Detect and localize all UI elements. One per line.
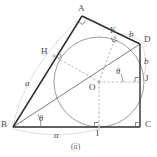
- side-label-a-left: a: [25, 79, 30, 88]
- side-label-a-bottom: a: [54, 131, 59, 140]
- side-label-b-right: b: [144, 57, 149, 66]
- vertex-label-h: H: [41, 47, 48, 56]
- vertex-label-j: J: [145, 74, 149, 83]
- angle-label-theta-at-o: θ: [116, 67, 120, 76]
- right-angle-mark-at-j: [135, 78, 140, 83]
- figure-canvas: [0, 0, 157, 157]
- vertex-label-o: O: [89, 83, 96, 92]
- radius-o-to-h: [54, 56, 99, 82]
- center-point-o: [98, 81, 100, 83]
- vertex-label-c: C: [145, 120, 151, 129]
- diagonal-b-to-d: [13, 44, 140, 127]
- figure-caption: (ii): [71, 143, 80, 151]
- tangent-point-h: [53, 55, 55, 57]
- vertex-label-k: K: [110, 26, 117, 35]
- vertex-label-b: B: [1, 120, 7, 129]
- quad-edge-b-to-a: [13, 16, 82, 127]
- geometry-figure: A B C D H K J I O a a b b θ θ (ii): [0, 0, 157, 157]
- angle-label-theta-at-b: θ: [39, 114, 43, 123]
- tangent-point-k: [114, 37, 116, 39]
- side-label-b-top: b: [129, 30, 134, 39]
- vertex-label-i: I: [96, 129, 99, 138]
- angle-arc-theta-at-o: [121, 74, 123, 82]
- radius-o-to-k: [99, 38, 115, 82]
- vertex-label-a: A: [78, 4, 85, 13]
- vertex-label-d: D: [144, 35, 151, 44]
